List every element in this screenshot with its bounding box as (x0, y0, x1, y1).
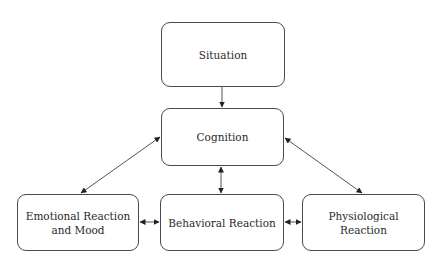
node-physiological-reaction: Physiological Reaction (302, 194, 425, 251)
edge-cognition-physiological (285, 138, 362, 193)
node-physiological-reaction-label: Physiological Reaction (309, 209, 418, 237)
node-cognition-label: Cognition (197, 130, 249, 144)
node-cognition: Cognition (161, 108, 284, 166)
node-situation: Situation (161, 22, 285, 87)
node-emotional-reaction-label: Emotional Reaction and Mood (26, 209, 130, 237)
edge-cognition-emotional (81, 137, 160, 193)
node-situation-label: Situation (199, 48, 247, 62)
node-emotional-reaction: Emotional Reaction and Mood (17, 194, 139, 251)
node-behavioral-reaction-label: Behavioral Reaction (168, 216, 275, 230)
node-behavioral-reaction: Behavioral Reaction (160, 194, 284, 251)
